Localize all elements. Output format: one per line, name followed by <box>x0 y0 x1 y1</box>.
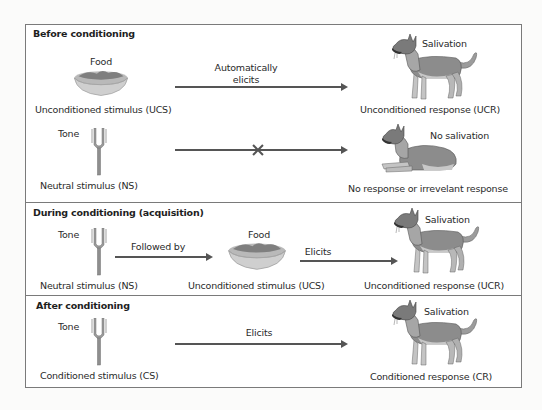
stimulus-top-label: Tone <box>58 321 79 332</box>
tuning-fork-icon <box>90 318 108 366</box>
response-label: Conditioned response (CR) <box>370 371 492 382</box>
food-bowl-icon <box>222 240 292 272</box>
section-divider <box>25 202 522 203</box>
elicits-arrow <box>175 86 342 88</box>
middle-top-label: Food <box>248 229 270 240</box>
response-top-label: Salivation <box>422 38 467 49</box>
stimulus-top-label: Tone <box>58 128 79 139</box>
stimulus-label: Neutral stimulus (NS) <box>40 180 138 191</box>
stimulus-top-label: Food <box>90 56 112 67</box>
tuning-fork-icon <box>90 128 108 176</box>
response-label: No response or irrevelant response <box>348 183 508 194</box>
arrow-label: Elicits <box>246 327 272 338</box>
section-title: After conditioning <box>36 300 130 311</box>
tuning-fork-icon <box>90 228 108 276</box>
response-top-label: Salivation <box>424 306 469 317</box>
followed-by-arrow <box>115 256 207 258</box>
elicits-arrow <box>175 343 342 345</box>
section-divider <box>25 295 522 296</box>
section-title: Before conditioning <box>33 28 135 39</box>
response-label: Unconditioned response (UCR) <box>360 104 500 115</box>
stimulus-label: Conditioned stimulus (CS) <box>40 370 159 381</box>
food-bowl-icon <box>66 68 136 98</box>
elicits-arrow <box>300 260 392 262</box>
section-title: During conditioning (acquisition) <box>33 207 204 218</box>
arrow-label: Followed by <box>131 241 185 252</box>
stimulus-top-label: Tone <box>58 229 79 240</box>
response-top-label: Salivation <box>425 214 470 225</box>
response-top-label: No salivation <box>430 130 489 141</box>
stimulus-label: Neutral stimulus (NS) <box>40 280 138 291</box>
response-label: Unconditioned response (UCR) <box>364 280 504 291</box>
cross-icon <box>252 144 264 156</box>
stimulus-label: Unconditioned stimulus (UCS) <box>35 104 171 115</box>
arrow-label: elicits <box>233 74 259 85</box>
arrow-label: Automatically <box>215 62 278 73</box>
arrow-label: Elicits <box>305 246 331 257</box>
middle-label: Unconditioned stimulus (UCS) <box>188 280 324 291</box>
